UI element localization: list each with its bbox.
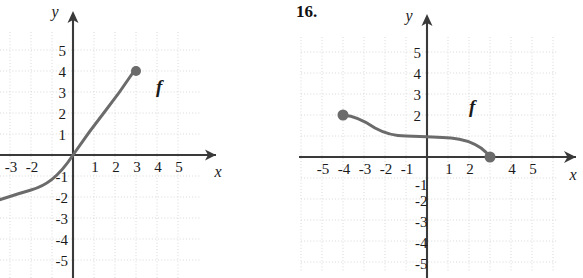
y-axis-label-right: y [403, 7, 413, 25]
x-tick-label-right-m4: -4 [338, 161, 351, 177]
grid-lines-right [301, 37, 557, 272]
y-tick-label-right-3: 3 [414, 87, 422, 103]
x-tick-label-right-m3: -3 [359, 161, 372, 177]
y-tick-label-right-2: 2 [414, 108, 422, 124]
y-tick-label-right-m3: -3 [415, 214, 428, 230]
coordinate-plot-right: y x -5 -4 -3 -2 -1 1 2 4 5 5 4 3 2 -1 -2… [291, 0, 583, 278]
x-tick-label-left-3: 3 [133, 159, 141, 175]
y-tick-label-left-m3: -3 [56, 211, 69, 227]
curve-label-left: f [156, 76, 164, 97]
y-tick-label-left-1: 1 [59, 127, 67, 143]
x-tick-label-left-2: 2 [112, 159, 120, 175]
y-axis-label-left: y [49, 3, 59, 21]
y-tick-label-right-m5: -5 [415, 256, 428, 272]
coordinate-plot-left: y x -3 -2 1 2 3 4 5 5 4 3 2 1 -1 -2 -3 -… [0, 0, 291, 278]
figure-page: y x -3 -2 1 2 3 4 5 5 4 3 2 1 -1 -2 -3 -… [0, 0, 583, 278]
y-tick-label-left-m5: -5 [56, 253, 69, 269]
y-tick-label-left-m2: -2 [56, 190, 69, 206]
x-tick-label-right-m2: -2 [380, 161, 393, 177]
x-tick-label-left-m2: -2 [26, 159, 39, 175]
y-tick-label-left-2: 2 [59, 106, 67, 122]
x-tick-label-right-4: 4 [508, 161, 516, 177]
curve-label-right: f [469, 96, 477, 117]
x-tick-label-left-4: 4 [154, 159, 162, 175]
x-axis-label-right: x [568, 166, 576, 183]
graph-panel-left: y x -3 -2 1 2 3 4 5 5 4 3 2 1 -1 -2 -3 -… [0, 0, 291, 278]
y-tick-label-right-m1: -1 [415, 177, 428, 193]
y-tick-label-right-5: 5 [414, 45, 422, 61]
y-tick-label-left-4: 4 [59, 64, 67, 80]
x-tick-label-right-2: 2 [466, 161, 474, 177]
endpoint-dot-right-end [485, 152, 496, 163]
y-tick-label-right-m2: -2 [415, 193, 428, 209]
x-tick-label-right-m1: -1 [401, 161, 414, 177]
x-tick-label-left-5: 5 [175, 159, 183, 175]
graph-panel-right: 16. [291, 0, 583, 278]
x-tick-label-left-1: 1 [91, 159, 99, 175]
x-axis-label-left: x [213, 163, 221, 180]
x-tick-label-right-1: 1 [445, 161, 453, 177]
y-axis-left [68, 11, 79, 278]
x-tick-label-left-m3: -3 [5, 159, 18, 175]
y-tick-label-left-m4: -4 [56, 232, 69, 248]
y-tick-label-left-5: 5 [59, 43, 67, 59]
endpoint-dot-right-start [338, 110, 349, 121]
y-tick-label-right-4: 4 [414, 66, 422, 82]
function-curve-left [0, 68, 136, 202]
y-tick-label-left-3: 3 [59, 85, 67, 101]
endpoint-dot-left [131, 66, 141, 76]
x-tick-label-right-5: 5 [529, 161, 537, 177]
x-tick-label-right-m5: -5 [317, 161, 330, 177]
y-tick-label-right-m4: -4 [415, 235, 428, 251]
